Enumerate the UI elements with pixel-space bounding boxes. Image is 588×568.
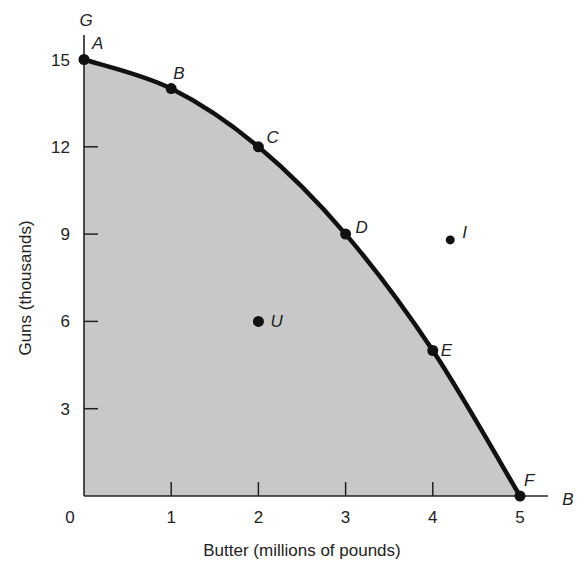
point-label-a: A bbox=[91, 34, 103, 53]
y-tick-label: 15 bbox=[51, 51, 70, 70]
x-tick-label: 3 bbox=[341, 508, 350, 527]
point-a bbox=[79, 54, 90, 65]
point-label-i: I bbox=[462, 223, 467, 242]
feasible-region-area bbox=[84, 60, 520, 497]
point-i bbox=[446, 235, 455, 244]
y-tick-label: 3 bbox=[61, 400, 70, 419]
point-d bbox=[340, 229, 351, 240]
y-axis-end-label: G bbox=[79, 11, 92, 30]
y-tick-label: 9 bbox=[61, 225, 70, 244]
point-b bbox=[166, 83, 177, 94]
point-label-c: C bbox=[266, 128, 279, 147]
point-c bbox=[253, 141, 264, 152]
point-label-u: U bbox=[270, 312, 283, 331]
point-label-b: B bbox=[173, 64, 184, 83]
point-u bbox=[253, 316, 264, 327]
point-label-f: F bbox=[524, 471, 536, 490]
y-tick-label: 12 bbox=[51, 138, 70, 157]
x-tick-label: 1 bbox=[166, 508, 175, 527]
ppf-chart: ABCDEFUI 0123453691215Butter (millions o… bbox=[0, 0, 588, 568]
point-label-d: D bbox=[356, 218, 368, 237]
y-axis-title: Guns (thousands) bbox=[16, 220, 35, 355]
x-tick-label: 5 bbox=[515, 508, 524, 527]
x-tick-label: 0 bbox=[65, 508, 74, 527]
x-axis-title: Butter (millions of pounds) bbox=[203, 541, 400, 560]
x-tick-label: 4 bbox=[428, 508, 437, 527]
point-label-e: E bbox=[441, 341, 453, 360]
x-axis-end-label: B bbox=[562, 490, 573, 509]
x-tick-label: 2 bbox=[254, 508, 263, 527]
point-f bbox=[515, 491, 526, 502]
y-tick-label: 6 bbox=[61, 312, 70, 331]
point-e bbox=[427, 345, 438, 356]
